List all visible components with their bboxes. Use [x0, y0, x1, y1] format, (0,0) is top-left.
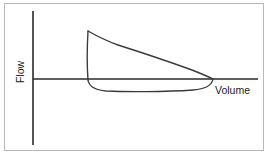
expiratory-limb-curve: [88, 31, 213, 79]
rising-limb-curve: [87, 31, 88, 80]
inspiratory-limb-curve: [88, 79, 213, 92]
x-axis-label: Volume: [215, 84, 250, 96]
flow-volume-loop-plot: Flow Volume: [0, 0, 269, 156]
y-axis-label: Flow: [14, 60, 26, 83]
